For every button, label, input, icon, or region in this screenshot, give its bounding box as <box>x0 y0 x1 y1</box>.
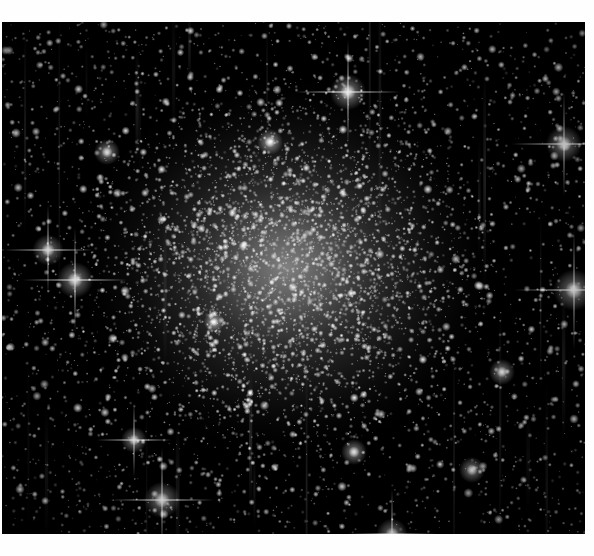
globular-cluster-starfield <box>2 22 585 534</box>
top-margin <box>0 0 594 22</box>
image-viewer <box>0 0 594 556</box>
bottom-margin <box>0 534 594 556</box>
astronomy-image-plate <box>2 22 585 534</box>
